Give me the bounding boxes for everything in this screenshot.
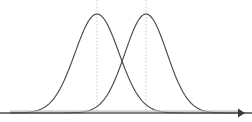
axis-arrow-icon [238, 109, 245, 118]
curves-group [0, 14, 252, 113]
left-distribution-curve [0, 14, 252, 113]
axis-group [10, 109, 245, 118]
figure-root: Two overlapping bell curves [0, 0, 252, 122]
right-distribution-curve [0, 14, 252, 113]
bell-curve-chart [0, 0, 252, 122]
